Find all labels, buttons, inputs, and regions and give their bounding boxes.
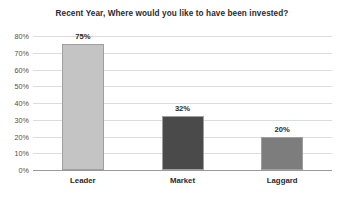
bar[interactable]: [162, 116, 204, 170]
x-tick-label: Market: [133, 176, 233, 185]
y-tick-label: 80%: [0, 32, 29, 41]
y-tick-label: 40%: [0, 99, 29, 108]
y-tick-label: 50%: [0, 82, 29, 91]
y-tick-label: 70%: [0, 48, 29, 57]
x-tick-label: Leader: [33, 176, 133, 185]
chart-title: Recent Year, Where would you like to hav…: [0, 9, 344, 18]
x-axis-line: [33, 170, 332, 171]
bar[interactable]: [62, 44, 104, 170]
bar-chart-figure: Recent Year, Where would you like to hav…: [0, 0, 344, 202]
y-tick-label: 60%: [0, 65, 29, 74]
bar-value-label: 75%: [62, 32, 104, 41]
bars-layer: 75%32%20%: [33, 36, 332, 170]
bar-value-label: 32%: [162, 104, 204, 113]
bar-group[interactable]: 32%: [162, 36, 204, 170]
bar-value-label: 20%: [261, 125, 303, 134]
y-tick-label: 10%: [0, 149, 29, 158]
bar-group[interactable]: 20%: [261, 36, 303, 170]
y-tick-label: 0%: [0, 166, 29, 175]
y-tick-label: 30%: [0, 115, 29, 124]
y-tick-label: 20%: [0, 132, 29, 141]
x-axis: LeaderMarketLaggard: [33, 176, 332, 192]
bar[interactable]: [261, 137, 303, 171]
bar-group[interactable]: 75%: [62, 36, 104, 170]
x-tick-label: Laggard: [232, 176, 332, 185]
y-axis: 0%10%20%30%40%50%60%70%80%: [0, 36, 29, 170]
